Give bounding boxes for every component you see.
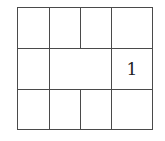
grid-cell-r1c3[interactable] bbox=[80, 7, 112, 49]
grid-cell-r2-merged[interactable] bbox=[49, 48, 112, 90]
grid-cell-r2c1[interactable] bbox=[17, 48, 50, 90]
grid-cell-r2c4[interactable]: 1 bbox=[111, 48, 153, 90]
grid-cell-r3c4[interactable] bbox=[111, 89, 153, 130]
grid-cell-r3c2[interactable] bbox=[49, 89, 81, 130]
grid-cell-r1c1[interactable] bbox=[17, 7, 50, 49]
grid-cell-r1c4[interactable] bbox=[111, 7, 153, 49]
puzzle-grid: 1 bbox=[0, 0, 165, 141]
grid-cell-r3c1[interactable] bbox=[17, 89, 50, 130]
grid-cell-r3c3[interactable] bbox=[80, 89, 112, 130]
cell-value: 1 bbox=[127, 61, 138, 78]
grid-cell-r1c2[interactable] bbox=[49, 7, 81, 49]
